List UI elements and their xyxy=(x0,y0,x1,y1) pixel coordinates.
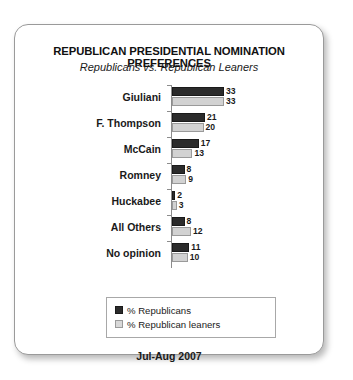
axis-tick xyxy=(167,163,171,164)
bar-value-label: 20 xyxy=(206,122,216,132)
bar-row: Huckabee23 xyxy=(15,189,325,215)
bar-value-label: 3 xyxy=(179,200,184,210)
axis-tick xyxy=(167,189,171,190)
chart-subtitle: Republicans vs. Republican Leaners xyxy=(15,61,323,73)
bar-row: Giuliani3333 xyxy=(15,85,325,111)
bar xyxy=(172,97,224,106)
bar-row: F. Thompson2120 xyxy=(15,111,325,137)
bar xyxy=(172,253,188,262)
category-label: McCain xyxy=(15,143,161,155)
bar xyxy=(172,149,192,158)
bar xyxy=(172,201,177,210)
bar-value-label: 2 xyxy=(177,190,182,200)
bar-row: Romney89 xyxy=(15,163,325,189)
bar xyxy=(172,123,204,132)
bar-value-label: 12 xyxy=(193,226,203,236)
bar-row: All Others812 xyxy=(15,215,325,241)
legend-label-republican-leaners: % Republican leaners xyxy=(127,319,220,330)
axis-tick xyxy=(167,137,171,138)
category-label: Romney xyxy=(15,169,161,181)
bar xyxy=(172,175,186,184)
plot-area: Giuliani3333F. Thompson2120McCain1713Rom… xyxy=(15,85,325,271)
chart-legend: % Republicans % Republican leaners xyxy=(106,297,276,338)
bar-value-label: 8 xyxy=(187,164,192,174)
bar-value-label: 8 xyxy=(187,216,192,226)
bar xyxy=(172,139,199,148)
legend-item-republican-leaners: % Republican leaners xyxy=(115,317,267,331)
bar-value-label: 33 xyxy=(226,96,236,106)
category-label: All Others xyxy=(15,221,161,233)
axis-tick xyxy=(167,215,171,216)
bar xyxy=(172,113,205,122)
bar-value-label: 21 xyxy=(207,112,217,122)
category-label: Giuliani xyxy=(15,91,161,103)
bar-value-label: 9 xyxy=(188,174,193,184)
legend-item-republicans: % Republicans xyxy=(115,303,267,317)
bar xyxy=(172,165,185,174)
legend-label-republicans: % Republicans xyxy=(127,305,191,316)
axis-tick xyxy=(167,85,171,86)
axis-tick xyxy=(167,111,171,112)
category-label: F. Thompson xyxy=(15,117,161,129)
axis-tick xyxy=(167,241,171,242)
bar-value-label: 10 xyxy=(190,252,200,262)
bar xyxy=(172,87,224,96)
bar-value-label: 13 xyxy=(194,148,204,158)
bar-value-label: 17 xyxy=(201,138,211,148)
bar xyxy=(172,217,185,226)
category-label: Huckabee xyxy=(15,195,161,207)
bar xyxy=(172,243,189,252)
chart-footer-date: Jul-Aug 2007 xyxy=(15,350,323,362)
bar xyxy=(172,191,175,200)
bar-row: McCain1713 xyxy=(15,137,325,163)
bar-value-label: 33 xyxy=(226,86,236,96)
bar-value-label: 11 xyxy=(191,242,200,252)
legend-swatch-republicans-icon xyxy=(115,306,123,314)
bar xyxy=(172,227,191,236)
category-label: No opinion xyxy=(15,247,161,259)
bar-row: No opinion1110 xyxy=(15,241,325,267)
chart-card: REPUBLICAN PRESIDENTIAL NOMINATION PREFE… xyxy=(14,24,324,355)
legend-swatch-republican-leaners-icon xyxy=(115,320,123,328)
